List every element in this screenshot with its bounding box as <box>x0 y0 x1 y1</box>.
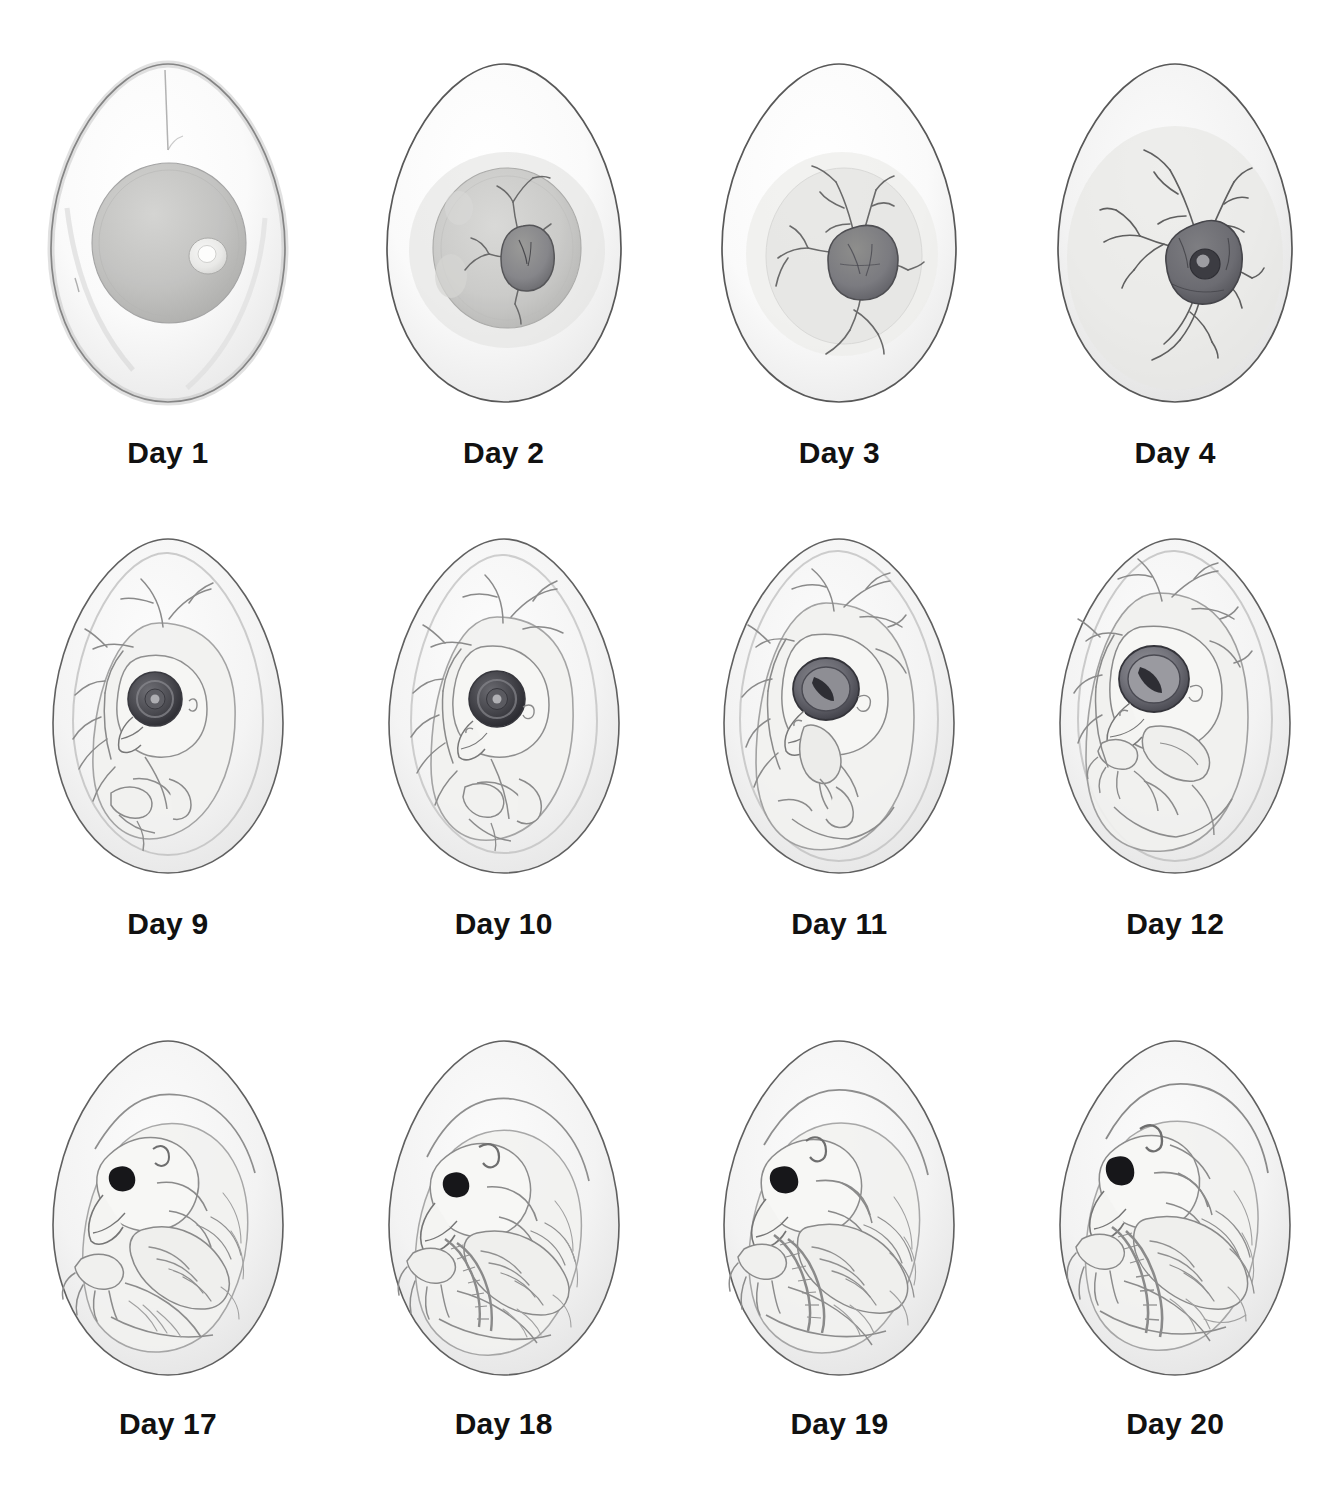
embryo-development-grid: Day 1 <box>0 0 1343 1504</box>
stage-label-day-10: Day 10 <box>455 909 553 939</box>
egg-day-11-icon <box>708 531 970 881</box>
stage-cell-day-1: Day 1 <box>0 0 336 501</box>
stage-cell-day-18: Day 18 <box>336 1003 672 1504</box>
egg-day-10-icon <box>373 531 635 881</box>
stage-label-day-19: Day 19 <box>790 1409 888 1439</box>
egg-day-9-icon <box>37 531 299 881</box>
stage-cell-day-17: Day 17 <box>0 1003 336 1504</box>
egg-day-18-icon <box>373 1033 635 1383</box>
egg-day-3-icon <box>708 58 970 408</box>
stage-cell-day-12: Day 12 <box>1007 501 1343 1002</box>
stage-cell-day-4: Day 4 <box>1007 0 1343 501</box>
stage-cell-day-2: Day 2 <box>336 0 672 501</box>
egg-day-4-icon <box>1044 58 1306 408</box>
stage-cell-day-19: Day 19 <box>672 1003 1008 1504</box>
stage-cell-day-11: Day 11 <box>672 501 1008 1002</box>
egg-day-19-icon <box>708 1033 970 1383</box>
stage-cell-day-10: Day 10 <box>336 501 672 1002</box>
stage-label-day-11: Day 11 <box>791 909 887 939</box>
stage-label-day-18: Day 18 <box>455 1409 553 1439</box>
stage-label-day-1: Day 1 <box>127 438 208 468</box>
stage-cell-day-20: Day 20 <box>1007 1003 1343 1504</box>
egg-day-2-icon <box>373 58 635 408</box>
egg-day-12-icon <box>1044 531 1306 881</box>
egg-day-20-icon <box>1044 1033 1306 1383</box>
stage-label-day-4: Day 4 <box>1135 438 1216 468</box>
egg-day-17-icon <box>37 1033 299 1383</box>
stage-label-day-2: Day 2 <box>463 438 544 468</box>
stage-cell-day-9: Day 9 <box>0 501 336 1002</box>
egg-day-1-icon <box>37 58 299 408</box>
stage-cell-day-3: Day 3 <box>672 0 1008 501</box>
stage-label-day-3: Day 3 <box>799 438 880 468</box>
stage-label-day-9: Day 9 <box>127 909 208 939</box>
stage-label-day-20: Day 20 <box>1126 1409 1224 1439</box>
stage-label-day-17: Day 17 <box>119 1409 217 1439</box>
stage-label-day-12: Day 12 <box>1126 909 1224 939</box>
